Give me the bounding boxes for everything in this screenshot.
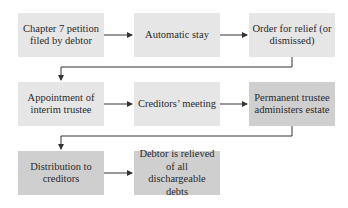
box-label: Chapter 7 petition filed by debtor [21,23,101,48]
box-label: Debtor is relieved of all dischargeable … [137,148,217,198]
box-debtor-relieved: Debtor is relieved of all dischargeable … [134,151,220,195]
box-label: Distribution to creditors [21,161,101,186]
arrow-permanent-to-distribution [61,126,292,149]
box-label: Permanent trustee administers estate [252,92,332,117]
box-creditors-meeting: Creditors’ meeting [134,82,220,126]
box-order-for-relief: Order for relief (or dismissed) [249,13,335,57]
box-interim-trustee: Appointment of interim trustee [18,82,104,126]
box-label: Appointment of interim trustee [21,92,101,117]
box-petition: Chapter 7 petition filed by debtor [18,13,104,57]
box-label: Creditors’ meeting [138,98,216,111]
box-permanent-trustee: Permanent trustee administers estate [249,82,335,126]
box-label: Automatic stay [145,29,209,42]
arrow-order-to-interim [61,57,292,80]
box-label: Order for relief (or dismissed) [252,23,332,48]
box-distribution: Distribution to creditors [18,151,104,195]
box-automatic-stay: Automatic stay [134,13,220,57]
